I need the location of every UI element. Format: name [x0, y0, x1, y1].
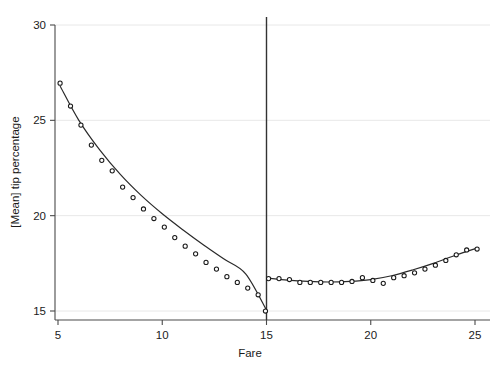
y-tick-label-20: 20: [33, 210, 46, 222]
data-point-s0-2: [79, 123, 83, 127]
data-point-s1-16: [433, 263, 437, 267]
y-axis-title: [Mean] tip percentage: [9, 116, 21, 227]
data-point-s0-20: [263, 309, 267, 313]
data-point-s0-1: [68, 104, 72, 108]
data-point-s1-3: [298, 280, 302, 284]
x-tick-label-20: 20: [364, 329, 377, 341]
plot-background: [0, 0, 493, 373]
y-tick-label-30: 30: [33, 19, 46, 31]
data-point-s0-7: [131, 195, 135, 199]
data-point-s1-11: [381, 281, 385, 285]
data-point-s0-12: [183, 244, 187, 248]
data-point-s0-3: [89, 143, 93, 147]
data-point-s0-8: [141, 207, 145, 211]
data-point-s1-13: [402, 274, 406, 278]
data-point-s0-10: [162, 225, 166, 229]
data-point-s0-5: [110, 169, 114, 173]
y-tick-label-25: 25: [33, 114, 46, 126]
data-point-s0-11: [173, 235, 177, 239]
data-point-s1-5: [319, 280, 323, 284]
data-point-s1-14: [412, 271, 416, 275]
data-point-s0-18: [246, 286, 250, 290]
data-point-s1-19: [465, 248, 469, 252]
x-tick-label-10: 10: [156, 329, 169, 341]
data-point-s1-12: [392, 276, 396, 280]
data-point-s1-2: [287, 277, 291, 281]
data-point-s0-9: [152, 216, 156, 220]
data-point-s0-19: [256, 293, 260, 297]
data-point-s0-6: [121, 185, 125, 189]
data-point-s0-15: [214, 267, 218, 271]
y-tick-label-15: 15: [33, 305, 46, 317]
regression-discontinuity-plot: 15202530510152025 Fare [Mean] tip percen…: [0, 0, 493, 373]
data-point-s1-0: [266, 276, 270, 280]
data-point-s1-9: [360, 276, 364, 280]
data-point-s0-14: [204, 260, 208, 264]
data-point-s1-17: [444, 258, 448, 262]
data-point-s0-17: [235, 280, 239, 284]
data-point-s1-6: [329, 280, 333, 284]
data-point-s0-16: [225, 275, 229, 279]
x-tick-label-5: 5: [55, 329, 61, 341]
data-point-s1-4: [308, 280, 312, 284]
chart-figure: 15202530510152025 Fare [Mean] tip percen…: [0, 0, 493, 373]
x-axis-title: Fare: [238, 347, 262, 359]
data-point-s1-15: [423, 267, 427, 271]
data-point-s0-0: [58, 81, 62, 85]
data-point-s1-20: [475, 247, 479, 251]
data-point-s1-10: [371, 278, 375, 282]
data-point-s1-8: [350, 279, 354, 283]
x-tick-label-25: 25: [469, 329, 482, 341]
data-point-s0-4: [100, 158, 104, 162]
data-point-s1-18: [454, 253, 458, 257]
data-point-s1-1: [277, 276, 281, 280]
x-tick-label-15: 15: [260, 329, 273, 341]
data-point-s0-13: [194, 252, 198, 256]
data-point-s1-7: [339, 280, 343, 284]
